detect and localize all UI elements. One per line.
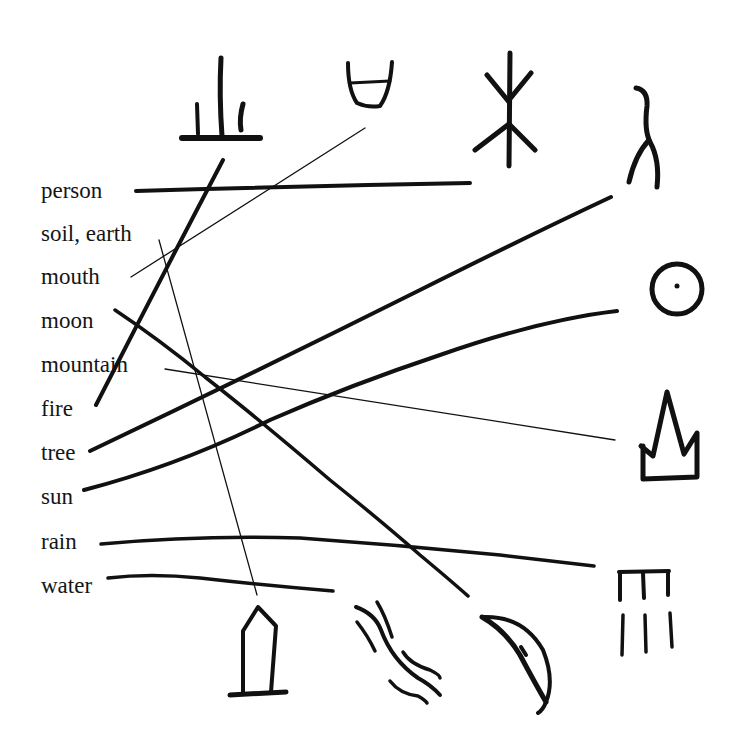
connection-water [108,576,333,592]
connection-mouth [131,128,365,277]
connection-mountain [165,369,615,440]
mouth-pictograph-icon [348,62,392,107]
connection-sun [84,311,617,490]
connection-fire [96,160,223,405]
rain-pictograph-icon [619,571,672,655]
water-pictograph-icon [356,602,440,703]
mountain-pictograph-icon [641,392,697,479]
tree-pictograph-icon [475,53,535,166]
person-pictograph-icon [629,88,658,187]
matching-diagram: person soil, earth mouth moon mountain f… [0,0,737,755]
connection-soil [159,240,257,595]
fire-pictograph-icon [182,58,260,138]
connection-person [136,183,470,191]
moon-pictograph-icon [482,617,550,713]
diagram-canvas [0,0,737,755]
soil-pictograph-icon [230,607,286,695]
sun-pictograph-icon [652,264,702,314]
connection-tree [90,197,611,451]
connection-rain [101,537,594,566]
